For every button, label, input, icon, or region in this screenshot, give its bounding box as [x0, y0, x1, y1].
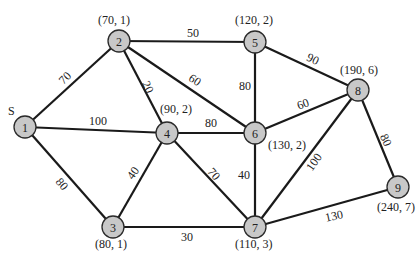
node-1: 1: [14, 116, 36, 138]
graph-diagram: 7010080502060804070308090406010013080 12…: [0, 0, 420, 254]
node-label: 5: [252, 36, 258, 50]
node-7: 7: [244, 216, 266, 238]
node-label: 3: [110, 221, 116, 235]
node-label: 4: [164, 127, 170, 141]
edge-weight-2-5: 50: [187, 26, 199, 40]
node-label: 9: [395, 181, 401, 195]
edge-weight-3-7: 30: [181, 230, 193, 244]
node-3: 3: [102, 216, 124, 238]
node-6-distance-label: (130, 2): [268, 138, 306, 152]
edge-weight-7-9: 130: [324, 207, 345, 224]
edge-weight-7-8: 100: [303, 151, 325, 174]
node-9: 9: [387, 176, 409, 198]
node-label: 1: [22, 121, 28, 135]
source-marker-label: S: [8, 104, 15, 118]
node-5-distance-label: (120, 2): [235, 13, 273, 27]
node-5: 5: [244, 31, 266, 53]
edge-2-5: [119, 41, 255, 42]
node-8-distance-label: (190, 6): [340, 63, 378, 77]
edge-weight-4-6: 80: [205, 116, 217, 130]
edge-weights-layer: 7010080502060804070308090406010013080: [53, 26, 395, 244]
edge-weight-2-6: 60: [186, 71, 204, 89]
node-7-distance-label: (110, 3): [235, 237, 273, 251]
node-6: 6: [244, 122, 266, 144]
node-label: 7: [252, 221, 258, 235]
edge-weight-8-9: 80: [377, 132, 395, 149]
node-label: 2: [116, 35, 122, 49]
node-4-distance-label: (90, 2): [160, 102, 192, 116]
edge-weight-2-4: 20: [139, 79, 157, 96]
edge-weight-4-7: 70: [205, 165, 223, 183]
edge-4-3: [113, 133, 167, 227]
node-2-distance-label: (70, 1): [98, 13, 130, 27]
node-9-distance-label: (240, 7): [377, 200, 415, 214]
edge-weight-1-4: 100: [89, 114, 107, 128]
edge-2-6: [119, 41, 255, 133]
node-4: 4: [156, 122, 178, 144]
node-label: 6: [252, 127, 258, 141]
node-3-distance-label: (80, 1): [95, 237, 127, 251]
node-2: 2: [108, 30, 130, 52]
edge-1-3: [25, 127, 113, 227]
edge-weight-6-7: 40: [238, 168, 250, 182]
node-label: 8: [355, 84, 361, 98]
edge-weight-5-6: 80: [239, 79, 251, 93]
node-8: 8: [347, 79, 369, 101]
